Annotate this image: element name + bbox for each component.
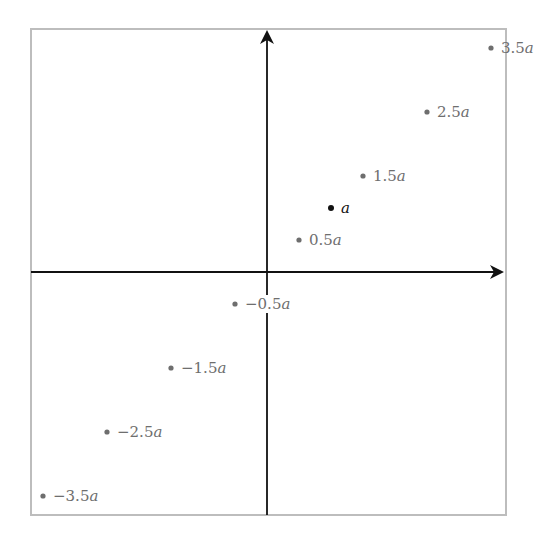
point-label: 3.5a xyxy=(501,39,534,57)
point-label: 2.5a xyxy=(437,103,470,121)
point-dot-icon xyxy=(40,493,45,498)
point-label: 1.5a xyxy=(373,167,406,185)
lattice-point: −2.5a xyxy=(104,423,162,441)
point-label: 0.5a xyxy=(309,231,342,249)
point-dot-icon xyxy=(104,429,109,434)
lattice-point: −0.5a xyxy=(232,295,299,313)
point-label: a xyxy=(341,199,350,217)
lattice-point: −3.5a xyxy=(40,487,98,505)
point-label: −1.5a xyxy=(181,359,226,377)
point-dot-icon xyxy=(424,109,429,114)
lattice-point: 3.5a xyxy=(488,39,533,57)
point-dot-icon xyxy=(232,301,237,306)
lattice-point: 2.5a xyxy=(424,103,469,121)
lattice-point: 0.5a xyxy=(296,231,341,249)
point-dot-icon xyxy=(328,205,334,211)
point-label: −0.5a xyxy=(245,295,290,313)
lattice-point: −1.5a xyxy=(168,359,226,377)
point-label: −3.5a xyxy=(53,487,98,505)
lattice-point: 1.5a xyxy=(360,167,405,185)
point-dot-icon xyxy=(488,45,493,50)
point-dot-icon xyxy=(360,173,365,178)
lattice-diagram: 3.5a2.5a1.5aa0.5a−0.5a−1.5a−2.5a−3.5a xyxy=(0,0,555,538)
point-dot-icon xyxy=(168,365,173,370)
point-label: −2.5a xyxy=(117,423,162,441)
lattice-point: a xyxy=(328,199,350,217)
point-dot-icon xyxy=(296,237,301,242)
